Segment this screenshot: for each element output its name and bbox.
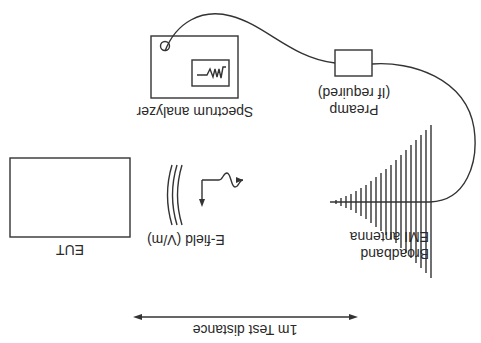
e-field-wave-1	[178, 165, 183, 225]
eut-box	[10, 158, 130, 237]
eut: EUT	[10, 158, 130, 258]
preamp-label-line1: Preamp	[329, 102, 378, 118]
emi-test-setup-diagram: Spectrum analyzer (If required) Preamp	[0, 0, 481, 343]
eut-label: EUT	[56, 242, 84, 258]
test-distance: 1m Test distance	[133, 314, 358, 338]
analyzer-label: Spectrum analyzer	[136, 104, 253, 120]
distance-arrowhead-right-icon	[133, 314, 142, 320]
broadband-antenna: Broadband EMI antenna	[330, 125, 431, 278]
analyzer-screen	[192, 60, 229, 86]
distance-arrowhead-left-icon	[349, 314, 358, 320]
e-field-wave-2	[173, 165, 178, 225]
preamp-box	[335, 50, 372, 76]
preamp: (If required) Preamp	[318, 50, 390, 118]
distance-label: 1m Test distance	[192, 322, 297, 338]
e-field-symbol: E-field (V/m)	[147, 165, 243, 248]
preamp-label-line2: (If required)	[318, 85, 390, 101]
antenna-label-line2: EMI antenna	[349, 229, 429, 245]
e-field-label: E-field (V/m)	[147, 232, 225, 248]
e-field-wave-3	[168, 165, 173, 225]
field-vector-arrowhead-icon	[199, 199, 205, 207]
spectrum-analyzer: Spectrum analyzer	[136, 36, 253, 120]
antenna-label-line1: Broadband	[360, 246, 429, 262]
